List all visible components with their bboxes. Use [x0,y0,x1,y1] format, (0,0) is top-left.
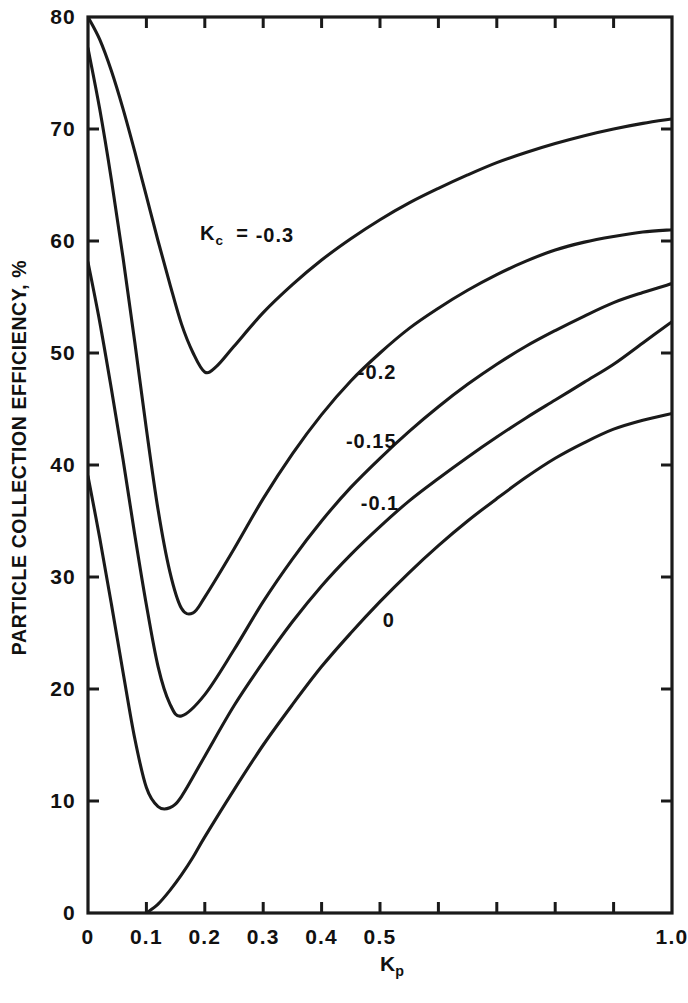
y-tick-label: 30 [0,565,76,589]
x-tick-label: 1.0 [656,925,688,949]
y-tick-label: 10 [0,789,76,813]
y-tick-label: 20 [0,677,76,701]
kc-symbol: Kc [200,222,223,244]
y-tick-label: 50 [0,341,76,365]
x-tick-label: 0 [82,925,95,949]
x-axis-title-main: K [380,952,395,975]
x-axis-title-sub: p [395,963,404,979]
x-tick-label: 0.5 [364,925,397,949]
x-tick-label: 0.3 [247,925,280,949]
series-value-label: -0.2 [358,361,396,384]
series-curve [88,17,672,373]
series-value-label: -0.15 [346,430,397,453]
series-curve [88,322,672,809]
y-tick-label: 40 [0,453,76,477]
x-tick-label: 0.2 [188,925,221,949]
plot-frame [88,17,672,913]
y-tick-label: 60 [0,229,76,253]
series-group [88,17,672,913]
y-tick-label: 0 [0,901,76,925]
y-tick-label: 80 [0,5,76,29]
series-value-label: 0 [383,608,395,631]
series-value-label: -0.1 [361,492,399,515]
x-tick-label: 0.1 [130,925,163,949]
series-curve [88,48,672,614]
x-axis-title: Kp [380,952,404,979]
series-curve [88,262,672,716]
y-tick-label: 70 [0,117,76,141]
x-tick-label: 0.4 [305,925,338,949]
kc-subscript: c [216,233,224,248]
series-group-label: Kc = [200,222,262,248]
series-value-label: -0.3 [256,224,294,247]
